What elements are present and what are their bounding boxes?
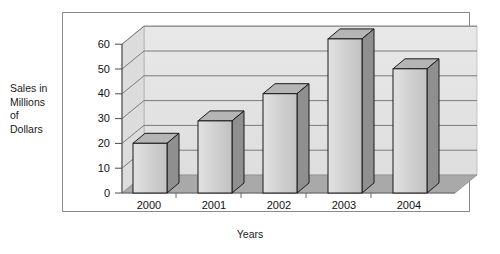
x-tick-label-2003: 2003 [316,199,372,211]
x-tick-label-2004: 2004 [381,199,437,211]
y-tick-label-30: 30 [84,113,110,124]
chart-frame [62,12,470,212]
y-tick-label-40: 40 [84,88,110,99]
y-tick-label-60: 60 [84,39,110,50]
x-tick-label-2000: 2000 [121,199,177,211]
x-tick-label-2002: 2002 [251,199,307,211]
chart-figure: Sales in Millions of Dollars [0,0,500,254]
y-tick-label-20: 20 [84,138,110,149]
x-tick-label-2001: 2001 [186,199,242,211]
y-axis-title: Sales in Millions of Dollars [10,82,62,136]
y-tick-label-0: 0 [84,188,110,199]
y-tick-label-50: 50 [84,64,110,75]
x-axis-title: Years [0,228,500,240]
y-tick-label-10: 10 [84,163,110,174]
